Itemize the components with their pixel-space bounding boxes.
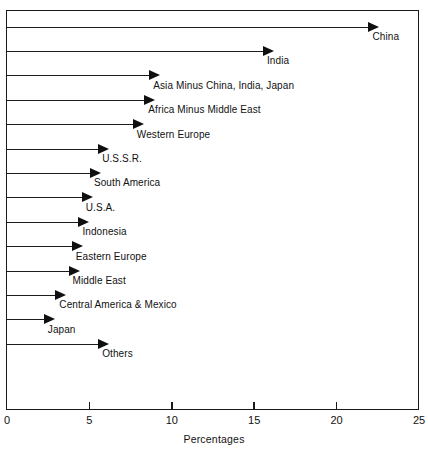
x-tick-label: 20	[330, 414, 342, 427]
x-tick-mark	[89, 402, 91, 410]
x-axis: 0510152025	[0, 0, 428, 453]
chart-root: ChinaIndiaAsia Minus China, India, Japan…	[0, 0, 428, 453]
x-tick-mark	[336, 402, 338, 410]
x-tick-label: 0	[4, 414, 10, 427]
x-tick-label: 15	[248, 414, 260, 427]
x-axis-title: Percentages	[0, 433, 428, 445]
x-tick-label: 25	[413, 414, 425, 427]
x-tick-label: 5	[86, 414, 92, 427]
x-tick-label: 10	[166, 414, 178, 427]
x-tick-mark	[253, 402, 255, 410]
x-tick-mark	[171, 402, 173, 410]
